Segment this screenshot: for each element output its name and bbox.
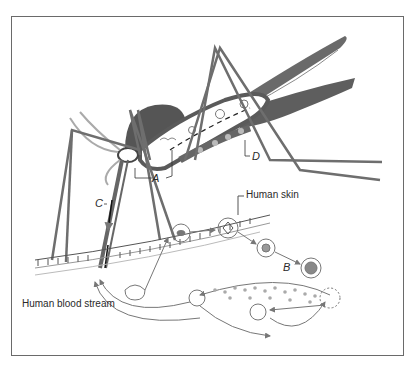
head-proboscis-icon	[100, 148, 138, 268]
human-skin-label: Human skin	[246, 190, 299, 200]
liver-stage-cells	[125, 218, 321, 300]
label-a: A	[152, 173, 159, 184]
label-c: C	[95, 198, 103, 209]
human-blood-stream-label: Human blood stream	[22, 299, 115, 309]
antennae-icon	[70, 112, 120, 185]
blood-stage-cycle	[95, 280, 340, 336]
mosquito-lifecycle-illustration	[0, 0, 412, 366]
label-d: D	[252, 151, 260, 162]
legs-icon	[52, 48, 382, 262]
label-b: B	[283, 262, 290, 273]
